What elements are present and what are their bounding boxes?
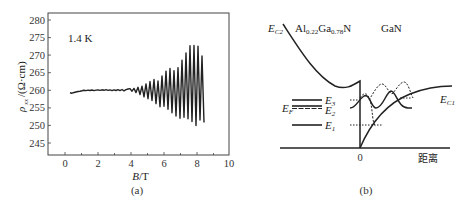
ec1-label: EC1 <box>439 93 455 107</box>
ytick-260: 260 <box>29 85 45 96</box>
ytick-265: 265 <box>29 67 45 78</box>
wavefunction-dotted <box>360 82 413 126</box>
ytick-255: 255 <box>29 102 45 113</box>
ef-label: EF <box>281 102 294 116</box>
figure: 280 275 270 265 260 255 250 245 0 2 4 6 … <box>0 0 462 207</box>
svg-text:/(Ω·cm): /(Ω·cm) <box>15 61 28 97</box>
gan-layer-label: GaN <box>381 22 402 34</box>
ytick-250: 250 <box>29 120 45 131</box>
caption-a: (a) <box>131 184 144 197</box>
ec2-label: EC2 <box>267 22 283 36</box>
xtick-6: 6 <box>161 158 166 169</box>
caption-b: (b) <box>360 184 373 197</box>
ytick-245: 245 <box>29 138 45 149</box>
xtick-8: 8 <box>194 158 199 169</box>
xtick-4: 4 <box>128 158 134 169</box>
x-axis-unit: /T <box>139 170 149 182</box>
temperature-label: 1.4 K <box>68 32 93 44</box>
panel-a: 280 275 270 265 260 255 250 245 0 2 4 6 … <box>15 13 234 197</box>
y-axis-label: ρ xx /(Ω·cm) <box>15 61 30 113</box>
ec1-band-curve <box>360 86 452 148</box>
algan-layer-label: Al0.22Ga0.78N <box>295 22 351 36</box>
ytick-270: 270 <box>29 50 45 61</box>
xtick-0: 0 <box>62 158 67 169</box>
panel-b: EC2 Al0.22Ga0.78N GaN EC1 EF E3 E2 E1 0 … <box>267 22 455 197</box>
origin-label: 0 <box>357 152 362 163</box>
svg-text:ρ: ρ <box>15 107 27 113</box>
ytick-275: 275 <box>29 32 45 43</box>
e1-label: E1 <box>324 119 335 133</box>
svg-text:xx: xx <box>22 98 30 106</box>
xtick-2: 2 <box>95 158 100 169</box>
ytick-280: 280 <box>29 15 45 26</box>
ec2-band-curve <box>283 24 360 148</box>
resistivity-curve <box>70 46 204 126</box>
xtick-10: 10 <box>224 158 235 169</box>
distance-label: 距离 <box>418 152 438 164</box>
